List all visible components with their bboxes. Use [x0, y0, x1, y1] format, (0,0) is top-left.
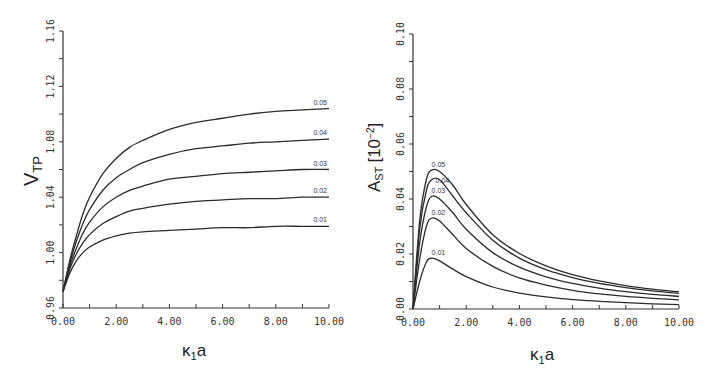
- right-chart-ast: 0.002.004.006.008.0010.000.000.020.040.0…: [365, 22, 694, 366]
- left-y-axis-title: VTP: [20, 156, 45, 186]
- curve-label-0.05: 0.05: [432, 161, 446, 168]
- y-tick-label: 0.02: [395, 242, 406, 266]
- x-tick-label: 4.00: [507, 317, 531, 328]
- right-x-axis-title: κ1a: [530, 345, 555, 366]
- left-chart-vtp: 0.002.004.006.008.0010.000.961.001.041.0…: [20, 19, 344, 362]
- left-curves: [63, 109, 329, 292]
- x-tick-label: 4.00: [157, 316, 181, 327]
- curve-label-0.01: 0.01: [432, 249, 446, 256]
- y-tick-label: 1.16: [45, 19, 56, 43]
- curve-0.03: [413, 196, 679, 309]
- curve-label-0.04: 0.04: [436, 177, 450, 184]
- y-tick-label: 1.00: [45, 241, 56, 265]
- left-x-axis-title: κ1a: [182, 341, 207, 362]
- y-tick-label: 0.10: [395, 22, 406, 46]
- curve-0.03: [63, 169, 329, 291]
- right-tick-labels: 0.002.004.006.008.0010.000.000.020.040.0…: [395, 22, 694, 328]
- y-tick-label: 1.04: [45, 185, 56, 209]
- curve-0.04: [413, 178, 679, 309]
- curve-label-0.03: 0.03: [432, 187, 446, 194]
- curve-0.04: [63, 139, 329, 291]
- left-curve-labels: 0.010.020.030.040.05: [313, 99, 327, 224]
- curve-0.01: [63, 226, 329, 291]
- right-y-axis-title: AST[10−2]: [365, 123, 385, 192]
- y-tick-label: 0.06: [395, 132, 406, 156]
- curve-0.05: [413, 169, 679, 309]
- curve-label-0.04: 0.04: [313, 129, 327, 136]
- x-tick-label: 10.00: [664, 317, 694, 328]
- x-tick-label: 2.00: [454, 317, 478, 328]
- y-tick-label: 0.08: [395, 77, 406, 101]
- curve-label-0.01: 0.01: [313, 216, 327, 223]
- y-tick-label: 0.04: [395, 187, 406, 211]
- x-tick-label: 10.00: [314, 316, 344, 327]
- left-tick-labels: 0.002.004.006.008.0010.000.961.001.041.0…: [45, 19, 344, 327]
- y-tick-label: 1.12: [45, 74, 56, 98]
- curve-0.05: [63, 109, 329, 292]
- curve-label-0.05: 0.05: [313, 99, 327, 106]
- x-tick-label: 8.00: [614, 317, 638, 328]
- x-tick-label: 8.00: [264, 316, 288, 327]
- x-tick-label: 6.00: [561, 317, 585, 328]
- y-tick-label: 1.08: [45, 130, 56, 154]
- curve-0.02: [413, 218, 679, 309]
- curve-0.02: [63, 197, 329, 291]
- x-tick-label: 2.00: [104, 316, 128, 327]
- curve-label-0.02: 0.02: [313, 187, 327, 194]
- figure: 0.002.004.006.008.0010.000.961.001.041.0…: [0, 0, 713, 387]
- right-axes: [413, 34, 679, 309]
- curve-label-0.03: 0.03: [313, 160, 327, 167]
- curve-label-0.02: 0.02: [432, 209, 446, 216]
- x-tick-label: 6.00: [211, 316, 235, 327]
- y-tick-label: 0.00: [395, 297, 406, 321]
- right-curve-labels: 0.010.020.030.040.05: [432, 161, 450, 256]
- right-curves: [413, 169, 679, 309]
- y-tick-label: 0.96: [45, 296, 56, 320]
